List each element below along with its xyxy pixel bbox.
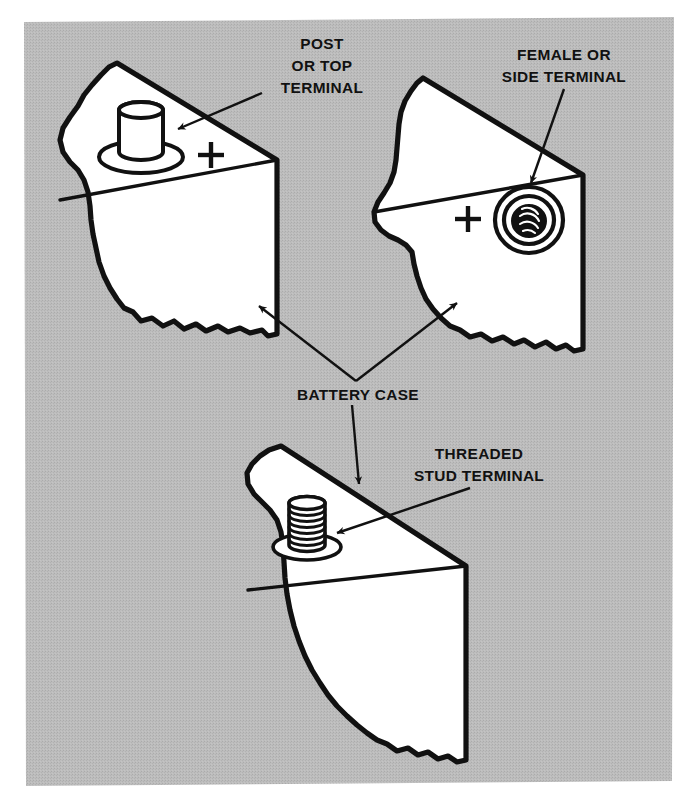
diagram-canvas: POST OR TOP TERMINAL bbox=[0, 0, 690, 811]
battery-case-label: BATTERY CASE bbox=[297, 386, 419, 403]
stud-terminal-label-line1: THREADED bbox=[435, 445, 523, 462]
battery-terminal-diagram: POST OR TOP TERMINAL bbox=[0, 0, 690, 811]
stud-terminal-label-line2: STUD TERMINAL bbox=[414, 467, 544, 484]
post-terminal-label-line2: OR TOP bbox=[292, 57, 353, 74]
side-terminal-label-line1: FEMALE OR bbox=[517, 46, 611, 63]
stud-terminal-top-face bbox=[289, 497, 325, 510]
side-terminal-socket bbox=[495, 187, 563, 253]
side-terminal-label-line2: SIDE TERMINAL bbox=[502, 68, 626, 85]
post-terminal-top-face bbox=[119, 102, 163, 118]
stud-terminal-screw bbox=[289, 497, 325, 552]
post-terminal-label-line1: POST bbox=[300, 35, 344, 52]
post-terminal-label-line3: TERMINAL bbox=[281, 79, 363, 96]
